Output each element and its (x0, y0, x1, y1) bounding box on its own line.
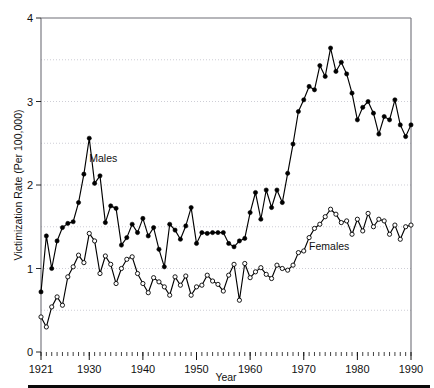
data-point (141, 281, 145, 285)
data-point (162, 285, 166, 289)
data-point (71, 220, 75, 224)
data-point (39, 315, 43, 319)
y-axis-ticks (36, 18, 41, 352)
data-point (114, 281, 118, 285)
data-point (184, 274, 188, 278)
data-point (103, 220, 107, 224)
data-point (178, 283, 182, 287)
data-point (194, 285, 198, 289)
data-point (350, 232, 354, 236)
data-point (55, 295, 59, 299)
data-point (302, 98, 306, 102)
data-point (141, 216, 145, 220)
data-point (82, 172, 86, 176)
data-point (253, 190, 257, 194)
y-tick-label: 1 (27, 263, 33, 275)
data-point (318, 63, 322, 67)
data-point (98, 174, 102, 178)
data-point (404, 134, 408, 138)
data-point (152, 225, 156, 229)
y-tick-label: 4 (27, 12, 33, 24)
data-point (146, 234, 150, 238)
data-point (280, 200, 284, 204)
data-point (93, 181, 97, 185)
data-point (237, 298, 241, 302)
data-point (210, 230, 214, 234)
data-point (328, 46, 332, 50)
data-point (366, 211, 370, 215)
data-point (216, 282, 220, 286)
data-point (355, 118, 359, 122)
data-point (382, 219, 386, 223)
data-point (259, 217, 263, 221)
data-point (125, 257, 129, 261)
data-point (205, 273, 209, 277)
data-point (44, 325, 48, 329)
data-point (312, 88, 316, 92)
data-point (227, 273, 231, 277)
data-point (232, 245, 236, 249)
data-point (157, 247, 161, 251)
x-tick-label: 1960 (238, 363, 262, 375)
x-tick-label: 1980 (345, 363, 369, 375)
data-point (387, 232, 391, 236)
data-point (339, 220, 343, 224)
data-point (253, 270, 257, 274)
data-point (168, 293, 172, 297)
x-tick-label: 1970 (292, 363, 316, 375)
data-point (71, 265, 75, 269)
data-point (109, 204, 113, 208)
data-point (221, 289, 225, 293)
data-point (398, 123, 402, 127)
x-axis-major-ticks (41, 352, 411, 360)
data-point (103, 254, 107, 258)
data-point (221, 230, 225, 234)
data-point (232, 262, 236, 266)
data-point (200, 283, 204, 287)
y-axis-title: Victimization Rate (Per 100,000) (12, 110, 24, 261)
data-point (125, 236, 129, 240)
data-point (194, 241, 198, 245)
data-point (328, 207, 332, 211)
data-point (269, 276, 273, 280)
data-point (280, 266, 284, 270)
x-tick-label: 1950 (184, 363, 208, 375)
data-point (87, 231, 91, 235)
data-point (55, 239, 59, 243)
females-series-label: Females (309, 240, 349, 252)
data-point (312, 226, 316, 230)
data-point (178, 237, 182, 241)
data-point (76, 253, 80, 257)
data-point (393, 98, 397, 102)
data-point (307, 236, 311, 240)
y-axis-tick-labels: 01234 (27, 12, 33, 358)
data-point (323, 74, 327, 78)
x-tick-label: 1990 (399, 363, 423, 375)
data-point (152, 276, 156, 280)
data-point (130, 222, 134, 226)
data-point (173, 275, 177, 279)
males-series-label: Males (89, 152, 117, 164)
data-point (216, 230, 220, 234)
victimization-rate-line-chart: 01234 19211930194019501960197019801990 M… (0, 0, 434, 388)
data-point (76, 200, 80, 204)
data-point (87, 136, 91, 140)
data-point (200, 230, 204, 234)
data-point (339, 60, 343, 64)
data-point (296, 251, 300, 255)
data-point (286, 268, 290, 272)
data-point (82, 261, 86, 265)
data-point (44, 234, 48, 238)
data-point (409, 123, 413, 127)
data-point (130, 255, 134, 259)
data-point (243, 261, 247, 265)
x-tick-label: 1921 (29, 363, 53, 375)
data-point (157, 280, 161, 284)
data-point (409, 223, 413, 227)
data-point (345, 219, 349, 223)
data-point (302, 249, 306, 253)
data-point (93, 239, 97, 243)
data-point (350, 91, 354, 95)
data-point (377, 217, 381, 221)
data-point (60, 303, 64, 307)
